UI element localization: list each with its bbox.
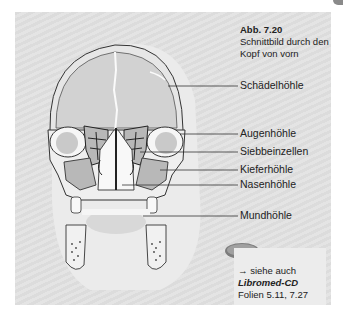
see-also-text: → siehe auch xyxy=(238,265,308,277)
cd-reference-text: → siehe auch Libromed-CD Folien 5.11, 7.… xyxy=(238,265,308,301)
label-mundhoehle: Mundhöhle xyxy=(240,209,292,221)
label-augenhoehle: Augenhöhle xyxy=(240,127,296,139)
label-schaedelhoehle: Schädelhöhle xyxy=(240,79,304,91)
figure-number: Abb. 7.20 xyxy=(240,24,329,36)
cd-slides: Folien 5.11, 7.27 xyxy=(238,289,308,301)
caption-line-1: Schnittbild durch den xyxy=(240,36,329,48)
caption-line-2: Kopf von vorn xyxy=(240,48,329,60)
figure-caption: Abb. 7.20 Schnittbild durch den Kopf von… xyxy=(240,24,329,60)
label-nasenhoehle: Nasenhöhle xyxy=(240,178,296,190)
label-kieferhoehle: Kieferhöhle xyxy=(240,163,293,175)
cd-brand: Libromed-CD xyxy=(238,277,308,289)
label-siebbeinzellen: Siebbeinzellen xyxy=(240,145,308,157)
